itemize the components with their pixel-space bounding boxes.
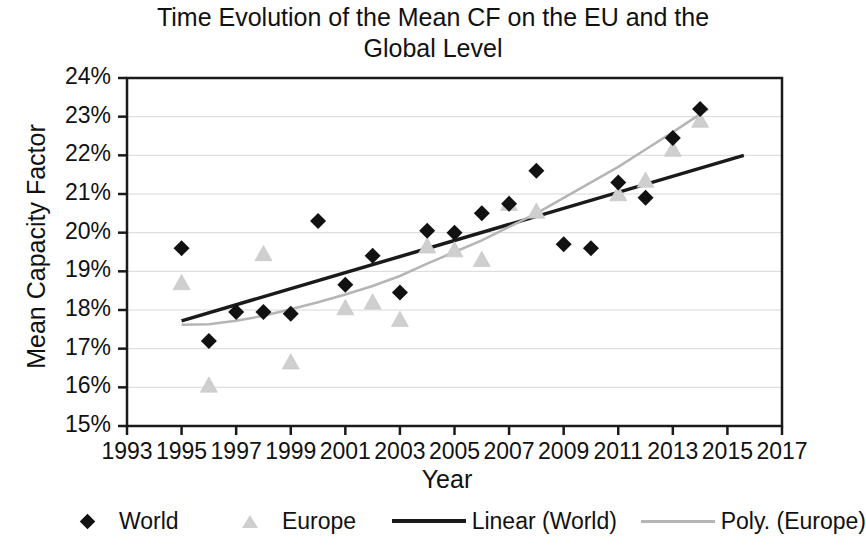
data-point-world [665,130,681,146]
legend-item-poly-europe[interactable]: Poly. (Europe) [635,508,866,535]
x-tick-label: 1993 [101,438,152,465]
x-tick-label: 1997 [211,438,262,465]
data-point-world [556,236,572,252]
data-point-world [337,277,353,293]
triangle-marker-icon [242,515,258,528]
legend-item-linear-world[interactable]: Linear (World) [386,508,617,535]
trend-lines [182,109,744,325]
data-point-world [474,205,490,221]
legend-label-world: World [119,508,179,535]
data-point-europe [173,274,190,289]
data-point-world [392,285,408,301]
x-tick-label: 2013 [647,438,698,465]
series-world-points [174,101,709,349]
data-point-world [638,190,654,206]
legend-item-europe[interactable]: Europe [236,508,356,535]
data-point-europe [255,245,272,260]
chart-legend: World Europe Linear (World) Poly. (Europ… [78,500,866,542]
data-point-europe [473,251,490,266]
legend-label-europe: Europe [282,508,356,535]
x-tick-label: 2017 [756,438,807,465]
data-point-europe [637,172,654,187]
data-point-world [583,240,599,256]
chart-container: Time Evolution of the Mean CF on the EU … [0,0,866,546]
x-tick-label: 1995 [156,438,207,465]
data-point-world [174,240,190,256]
data-point-world [528,163,544,179]
x-tick-label: 2005 [429,438,480,465]
data-point-europe [364,294,381,309]
data-point-europe [337,300,354,315]
trendline-poly-europe [182,109,709,325]
series-europe-points [173,112,709,392]
diamond-marker-icon [80,513,96,529]
line-marker-black-icon [392,519,466,523]
x-tick-label: 2015 [702,438,753,465]
data-point-world [610,174,626,190]
x-tick-label: 2011 [594,438,643,465]
legend-label-poly-europe: Poly. (Europe) [721,508,866,535]
x-tick-label: 2003 [374,438,425,465]
x-tick-label: 2009 [538,438,589,465]
line-marker-gray-icon [641,520,715,523]
legend-label-linear-world: Linear (World) [472,508,617,535]
x-tick-label: 2007 [483,438,534,465]
data-point-europe [200,377,217,392]
trendline-linear-world [182,155,744,320]
data-point-world [419,223,435,239]
data-point-world [692,101,708,117]
data-point-world [201,333,217,349]
data-point-europe [391,311,408,326]
x-tick-label: 1999 [265,438,316,465]
gridlines [127,117,782,426]
x-tick-label: 2001 [320,438,371,465]
data-point-world [310,213,326,229]
data-point-europe [282,354,299,369]
legend-item-world[interactable]: World [78,508,179,535]
